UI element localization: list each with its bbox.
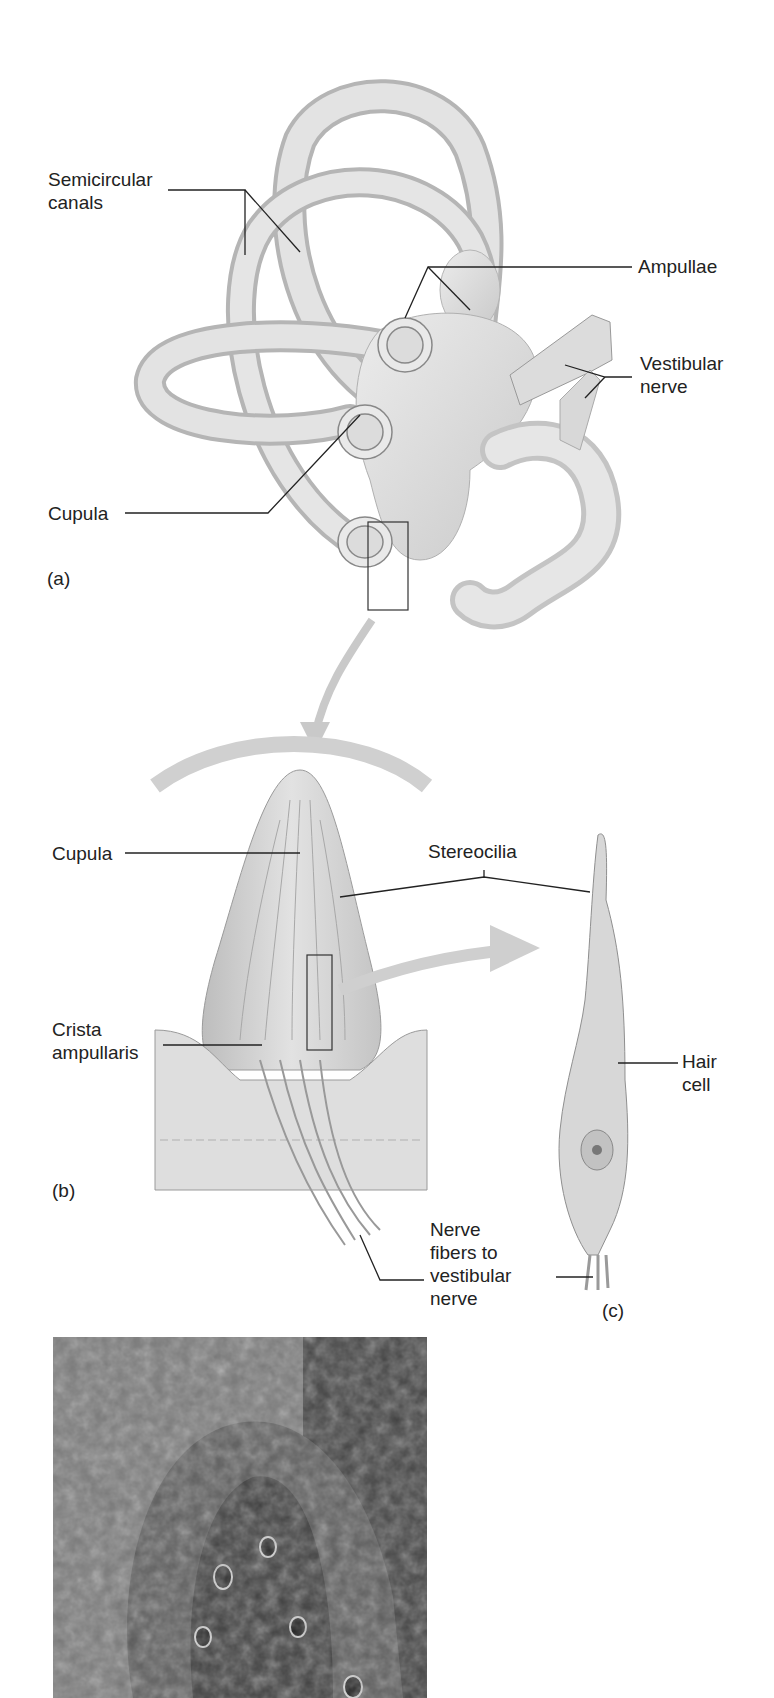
label-line: Semicircular [48,168,153,191]
label-semicircular-canals: Semicircular canals [48,168,153,214]
label-line: nerve [430,1287,511,1310]
vestibule-art [356,250,612,609]
label-line: Nerve [430,1218,511,1241]
arrow-right-icon [490,925,540,972]
label-line: cell [682,1073,717,1096]
label-line: ampullaris [52,1041,139,1064]
label-stereocilia: Stereocilia [428,840,517,863]
label-hair-cell: Hair cell [682,1050,717,1096]
panel-tag-a: (a) [47,568,70,590]
label-crista-ampullaris: Crista ampullaris [52,1018,139,1064]
hair-cell-art [559,834,628,1255]
label-cupula-b: Cupula [52,842,112,865]
label-cupula-a: Cupula [48,502,108,525]
label-line: Crista [52,1018,139,1041]
electron-micrograph [53,1337,427,1698]
label-nerve-fibers: Nerve fibers to vestibular nerve [430,1218,511,1310]
label-line: nerve [640,375,723,398]
label-ampullae: Ampullae [638,255,717,278]
label-line: fibers to [430,1241,511,1264]
label-line: Vestibular [640,352,723,375]
label-vestibular-nerve: Vestibular nerve [640,352,723,398]
panel-tag-b: (b) [52,1180,75,1202]
label-line: canals [48,191,153,214]
label-line: Hair [682,1050,717,1073]
panel-tag-c: (c) [602,1300,624,1322]
label-line: vestibular [430,1264,511,1287]
micrograph-texture [53,1337,427,1698]
